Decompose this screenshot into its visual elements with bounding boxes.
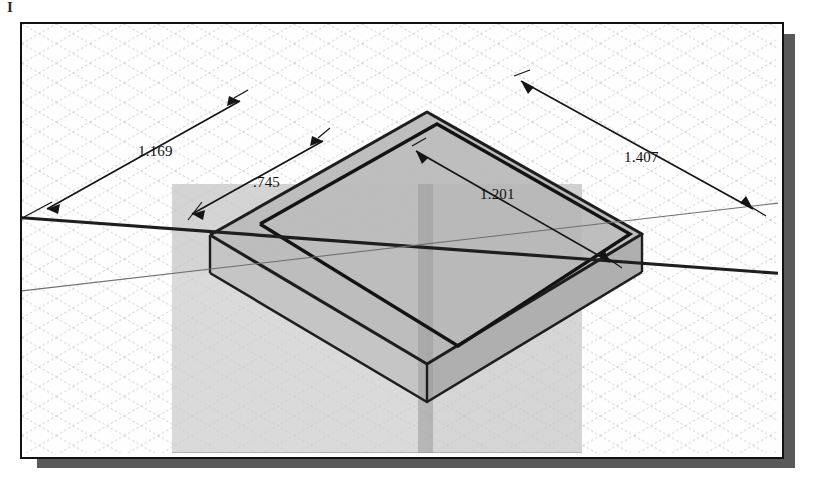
dimension-745-label: .745 xyxy=(253,174,280,190)
cad-3d-viewport[interactable]: 1.169 .745 xyxy=(22,24,778,453)
dimension-1407-label: 1.407 xyxy=(624,149,659,165)
cad-screenshot-stage: I xyxy=(0,0,818,485)
dimension-1169-label: 1.169 xyxy=(138,143,173,159)
page-corner-mark: I xyxy=(7,1,13,13)
dimension-1201-label: 1.201 xyxy=(480,186,515,202)
background-block-left xyxy=(172,184,427,453)
vertical-axis-bar xyxy=(418,184,433,453)
cad-viewport-frame[interactable]: 1.169 .745 xyxy=(20,22,784,459)
